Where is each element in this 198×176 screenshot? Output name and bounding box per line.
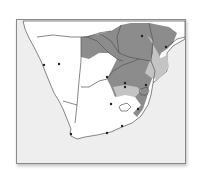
city-marker — [145, 84, 147, 86]
city-marker — [137, 108, 139, 110]
city-marker — [58, 63, 60, 65]
map-frame — [16, 19, 186, 164]
city-marker — [43, 64, 45, 66]
city-marker — [70, 133, 72, 135]
city-marker — [124, 86, 126, 88]
city-marker — [141, 35, 143, 37]
southern-africa-map — [17, 20, 185, 163]
city-marker — [106, 132, 108, 134]
city-marker — [110, 103, 112, 105]
city-marker — [124, 82, 126, 84]
city-marker — [121, 125, 123, 127]
city-marker — [165, 46, 167, 48]
city-marker — [106, 76, 108, 78]
